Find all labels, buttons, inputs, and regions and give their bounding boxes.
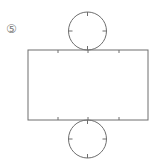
rectangle-ticks [58,50,119,120]
cylinder-net-diagram [0,0,155,165]
rectangle-lateral-surface [28,50,148,120]
bottom-circle [69,120,107,158]
top-circle [69,12,107,50]
